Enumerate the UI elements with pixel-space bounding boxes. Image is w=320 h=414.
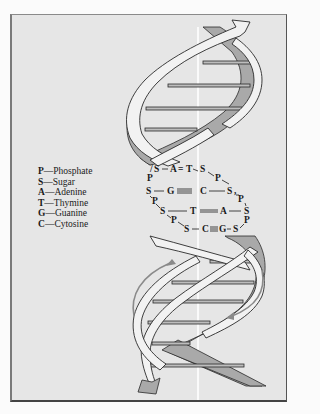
- svg-text:,: ,: [234, 186, 237, 196]
- bp-row4-left-sugar: S: [184, 224, 189, 234]
- svg-text:P: P: [215, 173, 221, 183]
- bp-row3-left-base: T: [190, 206, 197, 216]
- legend-item-guanine: G—Guanine: [38, 208, 92, 219]
- bp-row1-right-base: T: [186, 164, 193, 174]
- legend: P—Phosphate S—Sugar A—Adenine T—Thymine …: [38, 166, 92, 230]
- bp-row1-left-base: A: [170, 164, 177, 174]
- bp-row3-left-sugar: S: [160, 206, 165, 216]
- bp-row4-left-base: C: [202, 224, 209, 234]
- svg-text:P: P: [171, 215, 177, 225]
- legend-item-cytosine: C—Cytosine: [38, 219, 92, 230]
- bp-row4-right-base: G: [219, 224, 227, 234]
- legend-item-adenine: A—Adenine: [38, 187, 92, 198]
- bp-row2-right-base: C: [200, 186, 207, 196]
- svg-text:P: P: [147, 173, 153, 183]
- legend-item-sugar: S—Sugar: [38, 177, 92, 188]
- bp-row1-right-sugar: S: [200, 164, 205, 174]
- legend-item-thymine: T—Thymine: [38, 198, 92, 209]
- svg-text:P: P: [244, 215, 250, 225]
- svg-text:P: P: [238, 194, 244, 204]
- bp-row2-left-base: G: [167, 186, 175, 196]
- rotation-arrowhead-left-icon: [166, 259, 176, 266]
- bp-row4-right-sugar: S: [233, 224, 238, 234]
- bp-row1-bond: =: [178, 164, 183, 174]
- bp-row1-left-sugar: S: [154, 164, 159, 174]
- back-strand-bottom-diagonal: [162, 340, 266, 386]
- legend-item-phosphate: P—Phosphate: [38, 166, 92, 177]
- bp-row3-right-base: A: [220, 206, 227, 216]
- bp-row2-right-sugar: S: [227, 186, 232, 196]
- front-strand-crossing: [150, 128, 214, 166]
- svg-text:P: P: [152, 196, 158, 206]
- bp-row2-left-sugar: S: [146, 186, 151, 196]
